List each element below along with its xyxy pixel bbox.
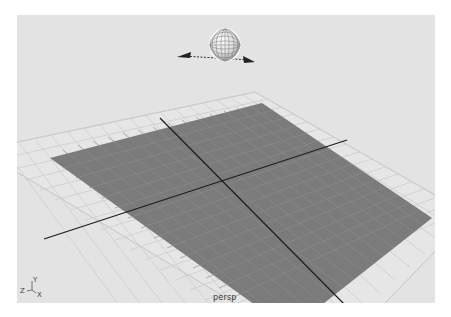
scene-canvas[interactable] — [17, 15, 435, 303]
axis-x-label: X — [37, 291, 42, 299]
arrow-left-icon — [177, 52, 191, 58]
axis-y-label: Y — [33, 276, 37, 284]
sphere-manipulator[interactable] — [177, 29, 255, 63]
camera-name-label: persp — [213, 293, 237, 302]
arrow-right-icon — [243, 56, 255, 63]
perspective-viewport[interactable]: Y Z X persp — [17, 15, 435, 303]
axis-z-label: Z — [20, 287, 25, 295]
